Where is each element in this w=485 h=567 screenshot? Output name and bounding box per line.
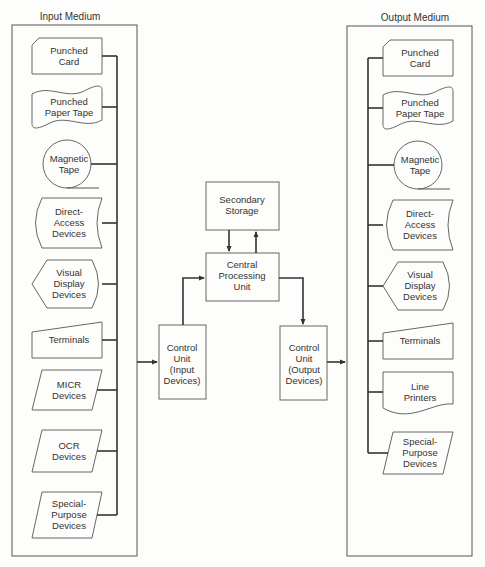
device-label-line: Devices — [403, 230, 437, 241]
secondary-storage-box: Secondary Storage — [206, 182, 279, 230]
device-label-line: Devices — [403, 291, 437, 302]
cpu-to-output-control-arrow — [279, 278, 303, 324]
cpu-box: Central Processing Unit — [206, 253, 279, 301]
device-magnetic-tape: MagneticTape — [43, 140, 117, 188]
device-label-line: Direct- — [55, 206, 83, 217]
device-label-line: Purpose — [51, 509, 86, 520]
device-special-purpose-devices: Special-PurposeDevices — [32, 492, 117, 538]
cpu-line: Central — [227, 259, 258, 270]
control-output-line: Unit — [296, 353, 313, 364]
output-medium-panel: Output Medium PunchedCardPunchedPaper Ta… — [347, 12, 472, 556]
device-direct-access-devices: Direct-AccessDevices — [368, 200, 453, 250]
device-label-line: Magnetic — [401, 154, 440, 165]
control-unit-input-box: Control Unit (Input Devices) — [159, 325, 206, 399]
device-label-line: Card — [59, 56, 80, 67]
control-output-line: Control — [289, 342, 320, 353]
device-label-line: Punched — [50, 45, 88, 56]
control-input-line: (Input — [170, 364, 195, 375]
data-flow-diagram: Input Medium PunchedCardPunchedPaper Tap… — [0, 0, 485, 567]
device-label-line: Terminals — [49, 334, 90, 345]
device-label-line: Punched — [50, 96, 88, 107]
device-terminals: Terminals — [32, 322, 117, 358]
control-input-line: Control — [167, 342, 198, 353]
device-magnetic-tape: MagneticTape — [368, 141, 450, 189]
device-label-line: Line — [411, 381, 429, 392]
input-medium-panel: Input Medium PunchedCardPunchedPaper Tap… — [12, 11, 137, 556]
device-label-line: Display — [404, 280, 435, 291]
device-punched-card: PunchedCard — [368, 40, 453, 76]
device-ocr-devices: OCRDevices — [32, 430, 117, 472]
device-label-line: Visual — [56, 267, 82, 278]
device-label-line: Access — [54, 217, 85, 228]
device-label-line: Purpose — [402, 447, 437, 458]
device-label-line: Display — [53, 278, 84, 289]
device-label-line: Devices — [52, 451, 86, 462]
device-label-line: Devices — [52, 520, 86, 531]
device-label-line: Devices — [52, 228, 86, 239]
device-label-line: Devices — [52, 390, 86, 401]
device-label-line: Devices — [52, 289, 86, 300]
device-label-line: Special- — [52, 498, 86, 509]
output-medium-title: Output Medium — [381, 12, 449, 23]
device-label-line: Punched — [401, 97, 439, 108]
device-label-line: Magnetic — [50, 153, 89, 164]
input-control-to-cpu-arrow — [183, 278, 204, 325]
device-label-line: Punched — [401, 47, 439, 58]
control-output-line: Devices) — [286, 375, 323, 386]
device-direct-access-devices: Direct-AccessDevices — [36, 198, 118, 248]
device-label-line: Direct- — [406, 208, 434, 219]
device-label-line: Terminals — [400, 335, 441, 346]
secondary-storage-line: Storage — [225, 205, 258, 216]
device-punched-paper-tape: PunchedPaper Tape — [368, 87, 453, 129]
control-output-line: (Output — [288, 364, 320, 375]
device-label-line: Devices — [403, 458, 437, 469]
device-visual-display-devices: VisualDisplayDevices — [368, 262, 450, 310]
control-input-line: Devices) — [164, 375, 201, 386]
device-label-line: Visual — [407, 269, 433, 280]
device-terminals: Terminals — [368, 323, 453, 359]
device-punched-card: PunchedCard — [32, 38, 117, 74]
device-label-line: Tape — [59, 164, 80, 175]
device-label-line: Printers — [404, 392, 437, 403]
control-unit-output-box: Control Unit (Output Devices) — [280, 326, 327, 400]
device-label-line: OCR — [58, 440, 79, 451]
control-input-line: Unit — [174, 353, 191, 364]
device-label-line: Access — [405, 219, 436, 230]
device-label-line: Paper Tape — [396, 108, 444, 119]
device-label-line: MICR — [57, 379, 81, 390]
device-label-line: Card — [410, 58, 431, 69]
device-visual-display-devices: VisualDisplayDevices — [32, 260, 117, 308]
secondary-storage-line: Secondary — [219, 194, 265, 205]
device-label-line: Tape — [410, 165, 431, 176]
device-special-purpose-devices: Special-PurposeDevices — [368, 432, 453, 474]
input-medium-title: Input Medium — [40, 11, 101, 22]
device-punched-paper-tape: PunchedPaper Tape — [32, 86, 117, 128]
device-micr-devices: MICRDevices — [32, 370, 117, 410]
cpu-line: Processing — [219, 270, 266, 281]
device-label-line: Paper Tape — [45, 107, 93, 118]
device-line-printers: LinePrinters — [368, 372, 453, 414]
cpu-line: Unit — [234, 281, 251, 292]
device-label-line: Special- — [403, 436, 437, 447]
